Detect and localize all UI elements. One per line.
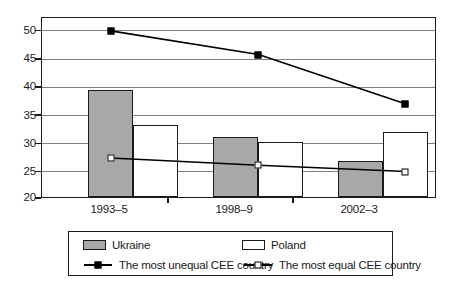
y-tick-label: 30	[6, 138, 36, 149]
x-tick-label-2002-3: 2002–3	[314, 203, 404, 216]
y-tick-label: 25	[6, 166, 36, 177]
bar-poland-2002-3	[383, 132, 428, 197]
legend-label-poland: Poland	[271, 239, 306, 251]
legend-line-filled-square-icon	[83, 259, 113, 270]
y-tick-label: 35	[6, 110, 36, 121]
plot-area	[41, 17, 436, 198]
legend-item-poland: Poland	[240, 234, 392, 255]
chart-figure: 50 45 40 35 30 25 20	[0, 0, 453, 283]
bar-poland-1993-5	[133, 125, 178, 197]
legend-row-lines: The most unequal CEE country The most eq…	[69, 254, 392, 275]
gridline-45	[42, 59, 435, 60]
y-tick-label: 20	[6, 192, 36, 203]
legend-item-most-unequal: The most unequal CEE country	[69, 254, 241, 275]
marker-most-unequal-1998-9	[255, 51, 262, 58]
marker-most-unequal-2002-3	[402, 101, 409, 108]
legend-row-bars: Ukraine Poland	[69, 234, 392, 255]
legend-swatch-solid-gray-icon	[83, 240, 106, 250]
line-most-unequal	[111, 31, 406, 104]
bar-ukraine-1998-9	[213, 137, 258, 197]
legend-label-ukraine: Ukraine	[112, 239, 150, 251]
x-tick-label-1993-5: 1993–5	[64, 203, 154, 216]
bar-poland-1998-9	[258, 142, 303, 197]
gridline-40	[42, 87, 435, 88]
legend-item-ukraine: Ukraine	[69, 234, 240, 255]
legend-item-most-equal: The most equal CEE country	[241, 254, 394, 275]
chart-legend: Ukraine Poland The most unequal CEE coun…	[68, 231, 393, 276]
bar-ukraine-2002-3	[338, 161, 383, 197]
y-tick-label: 45	[6, 53, 36, 64]
gridline-50	[42, 30, 435, 31]
x-tick-mark	[292, 197, 294, 203]
x-tick-label-1998-9: 1998–9	[189, 203, 279, 216]
x-tick-mark	[167, 197, 169, 203]
bar-ukraine-1993-5	[88, 90, 133, 197]
marker-most-equal-2002-3	[402, 168, 409, 175]
legend-label-most-equal: The most equal CEE country	[279, 259, 421, 271]
y-tick-label: 50	[6, 25, 36, 36]
legend-swatch-dotted-icon	[242, 240, 265, 250]
marker-most-equal-1998-9	[255, 162, 262, 169]
y-tick-label: 40	[6, 81, 36, 92]
marker-most-unequal-1993-5	[107, 27, 114, 34]
legend-line-open-square-icon	[243, 259, 273, 270]
marker-most-equal-1993-5	[107, 155, 114, 162]
